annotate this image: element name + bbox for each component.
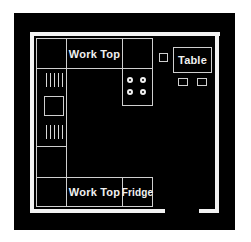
unit-above-hob [122, 38, 153, 69]
table: Table [173, 47, 212, 73]
drainer-line [46, 73, 47, 87]
drainer-line [54, 73, 55, 87]
drainer-line [58, 73, 59, 87]
work-top-bottom: Work Top [66, 177, 123, 207]
burner-icon [127, 89, 133, 95]
corner-unit-bottom-left [36, 177, 67, 207]
sink-basin [44, 96, 64, 116]
sink-icon [44, 72, 64, 144]
corner-unit-top-left [36, 38, 67, 69]
drainer-line [46, 125, 47, 139]
work-top-top: Work Top [66, 38, 123, 69]
drainer-line [62, 73, 63, 87]
burner-icon [140, 77, 146, 83]
chair-icon [197, 78, 207, 86]
hob-icon [127, 77, 149, 99]
chair-icon [159, 53, 168, 62]
burner-icon [127, 77, 133, 83]
fridge: Fridge [122, 177, 153, 207]
drainer-line [62, 125, 63, 139]
drainer-line [50, 73, 51, 87]
wall-right [215, 32, 219, 213]
unit-left-lower [36, 146, 67, 178]
drainer-line [58, 125, 59, 139]
chair-icon [178, 78, 188, 86]
drainer-line [50, 125, 51, 139]
wall-left [30, 32, 34, 213]
wall-bottom-left [30, 209, 165, 213]
burner-icon [140, 89, 146, 95]
wall-bottom-right [199, 209, 219, 213]
wall-top [30, 32, 220, 36]
drainer-line [54, 125, 55, 139]
